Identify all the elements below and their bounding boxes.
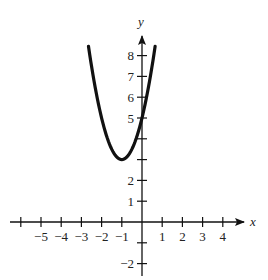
y-axis-label: y (136, 14, 144, 29)
y-tick-label: −2 (120, 256, 134, 271)
x-tick-label: −2 (95, 229, 109, 244)
y-tick-label: 7 (128, 69, 135, 84)
x-tick-label: −1 (115, 229, 129, 244)
y-tick-label: 5 (128, 111, 135, 126)
x-tick-label: 3 (199, 229, 206, 244)
y-tick-label: 6 (128, 90, 135, 105)
x-axis-label: x (249, 214, 256, 229)
parabola-graph: −5−4−3−2−11234 x 876521−2 y (0, 0, 268, 280)
x-tick-label: −3 (74, 229, 88, 244)
parabola-curve (88, 46, 155, 159)
y-tick-label: 8 (128, 48, 135, 63)
y-tick-label: 2 (128, 173, 135, 188)
x-tick-label: 2 (179, 229, 186, 244)
x-axis: −5−4−3−2−11234 x (10, 214, 256, 244)
x-tick-label: 4 (220, 229, 227, 244)
y-tick-label: 1 (128, 194, 135, 209)
x-tick-label: −4 (54, 229, 68, 244)
x-tick-label: −5 (34, 229, 48, 244)
x-tick-label: 1 (159, 229, 166, 244)
